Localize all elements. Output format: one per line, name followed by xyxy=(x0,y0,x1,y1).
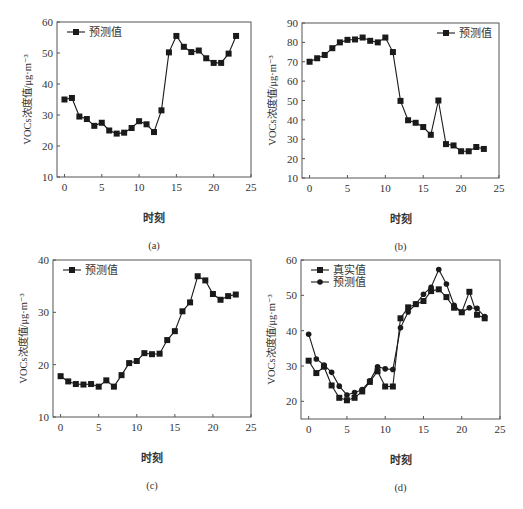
x-axis-label: 时刻 xyxy=(390,453,412,466)
series-line xyxy=(309,270,485,395)
y-axis-label: VOCs浓度值/μg·m⁻³ xyxy=(21,54,33,144)
y-tick-label: 50 xyxy=(42,47,54,59)
data-point-marker xyxy=(451,142,457,148)
data-point-marker xyxy=(336,395,342,401)
data-point-marker xyxy=(91,123,97,129)
x-tick-label: 10 xyxy=(380,182,392,194)
x-tick-label: 5 xyxy=(345,182,351,194)
legend: 预测值 xyxy=(437,27,492,39)
data-point-marker xyxy=(144,121,150,127)
x-axis-label: 时刻 xyxy=(141,451,163,464)
y-tick-label: 60 xyxy=(287,75,299,87)
data-point-marker xyxy=(336,383,342,389)
data-point-marker xyxy=(121,130,127,136)
data-point-marker xyxy=(195,273,201,279)
x-axis-label: 时刻 xyxy=(390,212,412,225)
data-point-marker xyxy=(76,114,82,120)
data-point-marker xyxy=(211,60,217,66)
data-point-marker xyxy=(179,308,185,314)
data-point-marker xyxy=(157,351,163,357)
legend-label: 预测值 xyxy=(333,276,366,288)
y-tick-label: 50 xyxy=(286,289,298,301)
y-tick-label: 60 xyxy=(286,254,298,266)
data-point-marker xyxy=(172,328,178,334)
data-point-marker xyxy=(482,314,488,320)
data-point-marker xyxy=(390,367,396,373)
x-tick-label: 15 xyxy=(418,423,430,435)
x-tick-label: 20 xyxy=(456,182,468,194)
data-point-marker xyxy=(58,373,64,379)
y-tick-label: 30 xyxy=(287,133,299,145)
chart-panel-c: 102030400510152025VOCs浓度值/μg·m⁻³时刻(c)预测值 xyxy=(0,250,263,509)
series-line xyxy=(61,276,236,386)
data-point-marker xyxy=(99,120,105,126)
x-axis-label: 时刻 xyxy=(143,211,165,224)
data-point-marker xyxy=(126,360,132,366)
data-point-marker xyxy=(398,315,404,321)
data-point-marker xyxy=(306,358,312,364)
data-point-marker xyxy=(375,39,381,45)
x-tick-label: 15 xyxy=(171,181,183,193)
x-tick-label: 0 xyxy=(306,423,312,435)
data-point-marker xyxy=(352,395,358,401)
data-point-marker xyxy=(129,125,135,131)
data-point-marker xyxy=(398,98,404,104)
x-tick-label: 0 xyxy=(62,181,68,193)
data-point-marker xyxy=(337,39,343,45)
data-point-marker xyxy=(73,381,79,387)
y-tick-label: 20 xyxy=(38,359,50,371)
data-point-marker xyxy=(481,146,487,152)
x-tick-label: 5 xyxy=(96,421,102,433)
y-tick-label: 40 xyxy=(286,325,298,337)
x-tick-label: 25 xyxy=(495,423,507,435)
y-tick-label: 40 xyxy=(38,254,50,266)
legend-label: 真实值 xyxy=(333,263,366,276)
data-point-marker xyxy=(329,370,335,376)
y-tick-label: 60 xyxy=(42,16,54,28)
legend-label: 预测值 xyxy=(89,26,122,38)
data-point-marker xyxy=(313,370,319,376)
data-point-marker xyxy=(306,331,312,337)
y-tick-label: 30 xyxy=(286,360,298,372)
data-point-marker xyxy=(428,132,434,138)
data-point-marker xyxy=(69,95,75,101)
data-point-marker xyxy=(166,49,172,55)
y-tick-label: 10 xyxy=(287,172,299,184)
legend-label: 预测值 xyxy=(459,27,492,39)
y-axis-label: VOCs浓度值/μg·m⁻³ xyxy=(266,55,278,145)
chart-panel-b: 1020304050607080900510152025VOCs浓度值/μg·m… xyxy=(260,0,523,263)
plot-frame xyxy=(57,22,251,177)
x-tick-label: 0 xyxy=(58,421,64,433)
legend: 真实值预测值 xyxy=(311,263,366,288)
data-point-marker xyxy=(65,378,71,384)
y-axis-label: VOCs浓度值/μg·m⁻³ xyxy=(17,293,29,383)
data-point-marker xyxy=(382,35,388,41)
data-point-marker xyxy=(329,45,335,51)
data-point-marker xyxy=(141,350,147,356)
panel-caption: (d) xyxy=(394,482,407,494)
data-point-marker xyxy=(111,384,117,390)
data-point-marker xyxy=(466,148,472,154)
series-line xyxy=(310,38,484,152)
data-point-marker xyxy=(314,55,320,61)
y-tick-label: 40 xyxy=(42,78,54,90)
data-point-marker xyxy=(187,299,193,305)
x-tick-label: 25 xyxy=(246,421,258,433)
data-point-marker xyxy=(188,49,194,55)
data-point-marker xyxy=(233,33,239,39)
data-point-marker xyxy=(352,36,358,42)
data-point-marker xyxy=(474,312,480,318)
data-point-marker xyxy=(226,51,232,57)
data-point-marker xyxy=(84,116,90,122)
data-point-marker xyxy=(203,55,209,61)
data-point-marker xyxy=(225,293,231,299)
data-point-marker xyxy=(398,325,404,331)
x-tick-label: 25 xyxy=(246,181,258,193)
data-point-marker xyxy=(344,392,350,398)
data-point-marker xyxy=(473,144,479,150)
data-point-marker xyxy=(181,44,187,50)
data-point-marker xyxy=(119,372,125,378)
data-point-marker xyxy=(149,351,155,357)
data-point-marker xyxy=(390,383,396,389)
y-axis-label: VOCs浓度值/μg·m⁻³ xyxy=(265,294,277,384)
